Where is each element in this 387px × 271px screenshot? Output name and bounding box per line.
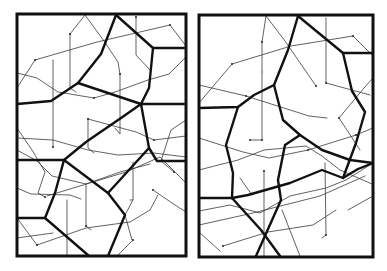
vertex-dot: [352, 35, 354, 37]
vertex-dot: [52, 146, 54, 148]
vertex-dot: [132, 239, 134, 241]
vertex-dot: [87, 118, 89, 120]
vertex-dot: [315, 85, 317, 87]
vertex-dot: [93, 97, 95, 99]
vertex-dot: [261, 41, 263, 43]
vertex-dot: [338, 117, 340, 119]
vertex-dot: [173, 171, 175, 173]
vertex-dot: [85, 225, 87, 227]
vertex-dot: [249, 139, 251, 141]
vertex-dot: [307, 149, 309, 151]
left-tiling-panel: [17, 14, 186, 256]
vertex-dot: [325, 234, 327, 236]
vertex-dot: [69, 33, 71, 35]
vertex-dot: [135, 16, 137, 18]
vertex-dot: [44, 196, 46, 198]
vertex-dot: [36, 244, 38, 246]
vertex-dot: [231, 63, 233, 65]
vertex-dot: [153, 139, 155, 141]
vertex-dot: [222, 245, 224, 247]
vertex-dot: [261, 139, 263, 141]
vertex-dot: [119, 73, 121, 75]
vertex-dot: [169, 24, 171, 26]
right-tiling-panel: [199, 15, 373, 257]
vertex-dot: [152, 189, 154, 191]
vertex-dot: [263, 170, 265, 172]
vertex-dot: [325, 82, 327, 84]
tiling-figure: [0, 0, 387, 271]
vertex-dot: [245, 95, 247, 97]
vertex-dot: [34, 59, 36, 61]
vertex-dot: [355, 134, 357, 136]
